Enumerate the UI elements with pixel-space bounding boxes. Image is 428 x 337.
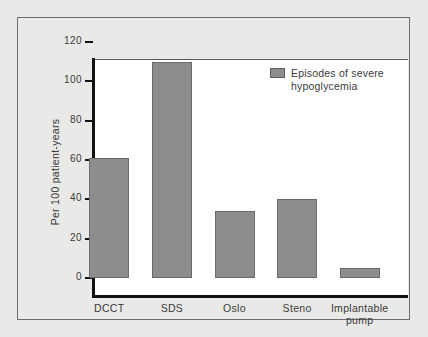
- y-tick-mark: [85, 120, 93, 122]
- x-label-line: pump: [328, 314, 391, 326]
- y-tick-label: 80: [48, 114, 82, 125]
- bar-oslo: [215, 211, 255, 278]
- x-axis-label-dcct: DCCT: [78, 302, 141, 314]
- x-axis-label-sds: SDS: [141, 302, 204, 314]
- y-tick-mark: [85, 41, 93, 43]
- bar-sds: [152, 62, 192, 278]
- x-axis-line: [92, 295, 408, 298]
- y-tick-label: 120: [48, 35, 82, 46]
- bar-implantable-pump: [340, 268, 380, 278]
- plot-top-spine: [95, 59, 408, 60]
- legend-label-episodes: Episodes of severehypoglycemia: [291, 67, 384, 93]
- y-tick-label: 100: [48, 74, 82, 85]
- x-label-line: Implantable: [328, 302, 391, 314]
- legend-label-line: hypoglycemia: [291, 80, 384, 93]
- figure-container: Per 100 patient-years 020406080100120 DC…: [0, 0, 428, 337]
- y-tick-label: 20: [48, 232, 82, 243]
- x-label-line: Oslo: [203, 302, 266, 314]
- x-label-line: DCCT: [78, 302, 141, 314]
- y-tick-label: 0: [48, 271, 82, 282]
- y-tick-label: 60: [48, 153, 82, 164]
- y-tick-label: 40: [48, 192, 82, 203]
- x-axis-label-steno: Steno: [266, 302, 329, 314]
- legend-swatch-episodes: [270, 68, 285, 78]
- x-axis-label-oslo: Oslo: [203, 302, 266, 314]
- chart-legend: Episodes of severehypoglycemia: [270, 67, 384, 93]
- bar-dcct: [89, 158, 129, 278]
- x-label-line: SDS: [141, 302, 204, 314]
- y-tick-mark: [85, 80, 93, 82]
- x-axis-label-implantable-pump: Implantablepump: [328, 302, 391, 326]
- legend-label-line: Episodes of severe: [291, 67, 384, 80]
- x-label-line: Steno: [266, 302, 329, 314]
- bar-steno: [277, 199, 317, 278]
- figure-frame: Per 100 patient-years 020406080100120 DC…: [17, 17, 410, 320]
